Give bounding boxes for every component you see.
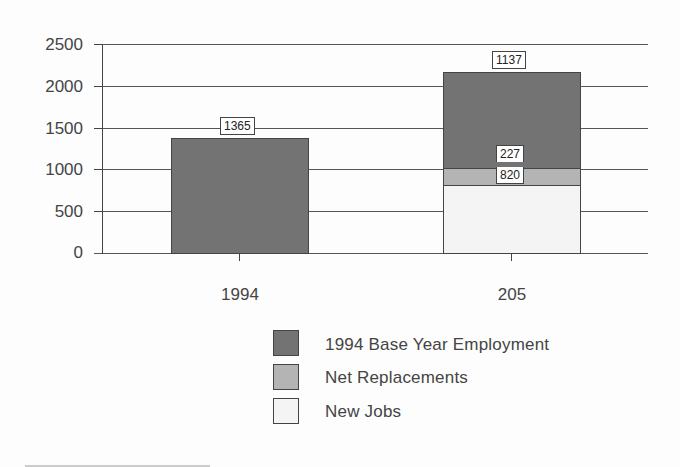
y-tick-label: 2000 (23, 78, 83, 96)
data-label: 227 (496, 145, 524, 162)
bar-1994-base-employment (171, 138, 309, 254)
y-tick-label: 0 (23, 244, 83, 262)
y-tick (94, 86, 102, 87)
legend-label: New Jobs (325, 402, 401, 422)
x-tick (511, 253, 512, 261)
gridline (102, 44, 648, 45)
y-tick (94, 128, 102, 129)
bar-205-new-jobs (443, 185, 581, 254)
y-tick (94, 44, 102, 45)
legend-swatch-base-employment (273, 330, 299, 356)
y-tick-label: 1500 (23, 120, 83, 138)
y-tick-label: 500 (23, 203, 83, 221)
y-tick (94, 211, 102, 212)
legend-label: Net Replacements (325, 368, 468, 388)
x-tick-label: 205 (472, 285, 552, 305)
y-tick (94, 169, 102, 170)
legend-label: 1994 Base Year Employment (325, 335, 549, 355)
legend-swatch-new-jobs (273, 398, 299, 424)
data-label: 1137 (492, 51, 526, 69)
y-tick-label: 1000 (23, 161, 83, 179)
y-tick-label: 2500 (23, 36, 83, 54)
y-axis (102, 44, 103, 254)
x-tick (239, 253, 240, 261)
x-tick-label: 1994 (200, 285, 280, 305)
data-label: 1365 (220, 117, 255, 135)
legend-swatch-net-replacements (273, 364, 299, 390)
data-label: 820 (496, 167, 524, 184)
